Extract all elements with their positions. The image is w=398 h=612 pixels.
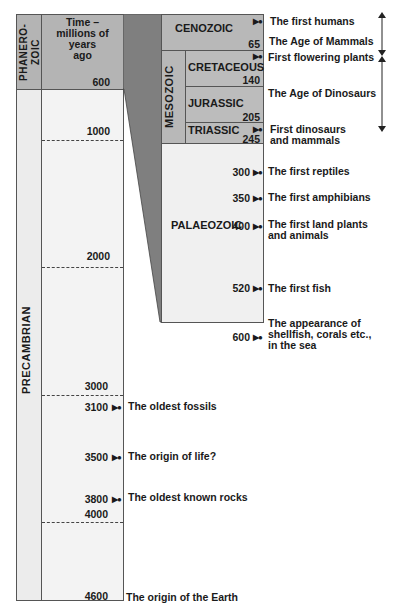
event-marker-icon: ▶● xyxy=(253,169,262,177)
age-3500: 3500 xyxy=(58,451,108,463)
age-3100: 3100 xyxy=(58,401,108,413)
event-first-reptiles: The first reptiles xyxy=(268,166,350,177)
divider-4000 xyxy=(42,522,123,523)
time-header-label: Time – millions of years ago xyxy=(42,17,123,61)
precambrian-label: PRECAMBRIAN xyxy=(20,290,38,410)
age-400: 400 xyxy=(210,220,250,232)
cenozoic-label: CENOZOIC xyxy=(175,22,233,34)
phanerozoic-label: PHANERO- ZOIC xyxy=(18,16,40,88)
age-350: 350 xyxy=(210,192,250,204)
event-first-humans: The first humans xyxy=(270,16,355,27)
event-first-amphibians: The first amphibians xyxy=(268,192,371,203)
event-first-land-plants: The first land plants and animals xyxy=(268,219,368,241)
age-520: 520 xyxy=(210,282,250,294)
event-shellfish-corals: The appearance of shellfish, corals etc.… xyxy=(268,318,371,351)
event-origin-of-earth: The origin of the Earth xyxy=(126,592,238,603)
event-marker-icon: ▶● xyxy=(253,126,262,134)
event-first-fish: The first fish xyxy=(268,283,331,294)
event-first-flowering-plants: First flowering plants xyxy=(268,52,374,63)
age-3800: 3800 xyxy=(58,493,108,505)
event-marker-icon: ▶● xyxy=(253,334,262,342)
event-marker-icon: ▶● xyxy=(253,285,262,293)
event-age-of-dinosaurs: The Age of Dinosaurs xyxy=(268,88,376,99)
mesozoic-label: MESOZOIC xyxy=(163,52,183,142)
event-marker-icon: ▶● xyxy=(112,454,121,462)
divider-1000 xyxy=(42,140,123,141)
precambrian-time-column xyxy=(41,89,124,601)
event-oldest-fossils: The oldest fossils xyxy=(128,401,217,412)
jurassic-label: JURASSIC xyxy=(188,97,244,109)
boundary-65: 65 xyxy=(220,38,260,50)
age-4600: 4600 xyxy=(58,590,108,602)
event-first-dinosaurs: First dinosaurs and mammals xyxy=(270,124,346,146)
event-marker-icon: ▶● xyxy=(253,195,262,203)
scale-expansion-wedge xyxy=(123,14,163,324)
event-origin-of-life: The origin of life? xyxy=(128,451,216,462)
tick-2000: 2000 xyxy=(60,250,110,262)
event-marker-icon: ▶● xyxy=(112,404,121,412)
tick-3000: 3000 xyxy=(58,380,108,392)
event-marker-icon: ▶● xyxy=(253,53,262,61)
range-arrows-icon xyxy=(376,12,388,134)
event-marker-icon: ▶● xyxy=(112,496,121,504)
tick-4000: 4000 xyxy=(58,508,108,520)
age-600: 600 xyxy=(210,331,250,343)
age-300: 300 xyxy=(210,166,250,178)
tick-1000: 1000 xyxy=(60,125,110,137)
boundary-140: 140 xyxy=(220,74,260,86)
divider-3000 xyxy=(42,395,123,396)
tick-600: 600 xyxy=(60,76,110,88)
cretaceous-label: CRETACEOUS xyxy=(188,61,264,73)
event-age-of-mammals: The Age of Mammals xyxy=(269,36,374,47)
divider-2000 xyxy=(42,267,123,268)
event-marker-icon: ▶● xyxy=(253,18,262,26)
event-oldest-rocks: The oldest known rocks xyxy=(128,492,248,503)
event-marker-icon: ▶● xyxy=(253,223,262,231)
